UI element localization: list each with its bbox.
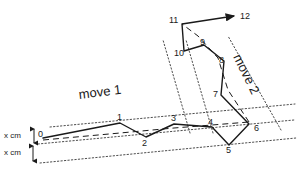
corridor-move1 bbox=[38, 104, 296, 163]
dimension-label-top: x cm bbox=[4, 132, 21, 140]
node-label-7: 7 bbox=[213, 90, 218, 99]
node-label-10: 10 bbox=[174, 49, 184, 58]
node-label-8: 8 bbox=[219, 56, 224, 65]
node-label-6: 6 bbox=[254, 124, 259, 133]
dimension-label-bottom: x cm bbox=[4, 149, 21, 157]
route-path bbox=[43, 24, 249, 145]
node-label-4: 4 bbox=[208, 118, 213, 127]
node-label-2: 2 bbox=[142, 139, 147, 148]
exit-arrow bbox=[182, 16, 234, 24]
diagram-canvas: 0 1 2 3 4 5 6 7 8 9 10 11 12 move 1 move… bbox=[0, 0, 297, 172]
centerlines bbox=[43, 24, 249, 140]
node-label-9: 9 bbox=[200, 38, 205, 47]
node-label-11: 11 bbox=[169, 16, 178, 25]
node-label-1: 1 bbox=[117, 113, 122, 122]
node-label-3: 3 bbox=[171, 114, 176, 123]
node-label-0: 0 bbox=[38, 130, 43, 139]
node-label-12: 12 bbox=[240, 12, 250, 21]
node-label-5: 5 bbox=[226, 146, 231, 155]
corridor-line-move1-bottom bbox=[40, 138, 296, 163]
